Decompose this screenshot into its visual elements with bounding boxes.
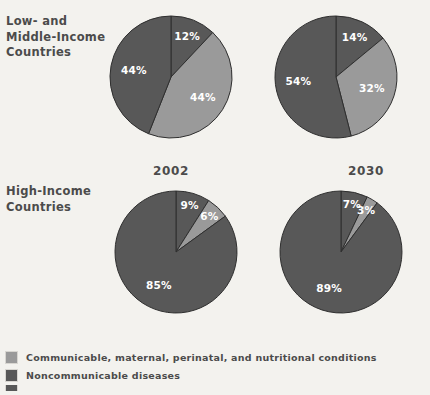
legend-item-injuries <box>5 385 425 391</box>
pie-slice-label: 12% <box>174 30 200 42</box>
pie-slice <box>280 191 402 313</box>
row-label-high-income: High-Income Countries <box>6 184 91 215</box>
legend-label-noncommunicable: Noncommunicable diseases <box>26 370 180 381</box>
pie-chart-low-middle-2002: 12%44%44% <box>107 13 235 141</box>
pie-slice-label: 44% <box>121 64 147 76</box>
pie-slice-label: 54% <box>286 75 312 87</box>
legend-item-noncommunicable: Noncommunicable diseases <box>5 367 425 383</box>
legend-swatch-injuries-icon <box>5 385 18 391</box>
pie-slice-label: 85% <box>146 279 172 291</box>
pie-slice-label: 44% <box>190 91 216 103</box>
pie-chart-high-income-2002: 9%6%85% <box>112 188 240 316</box>
pie-slice-label: 6% <box>200 210 219 222</box>
year-caption-2002: 2002 <box>141 164 201 178</box>
legend-swatch-communicable-icon <box>5 351 18 364</box>
legend: Communicable, maternal, perinatal, and n… <box>5 349 425 393</box>
pie-slice-label: 9% <box>180 199 199 211</box>
pie-chart-figure: Low- and Middle-Income Countries High-In… <box>0 0 430 395</box>
pie-slice-label: 89% <box>316 282 342 294</box>
pie-slice-label: 14% <box>342 31 368 43</box>
pie-slice-label: 3% <box>357 204 376 216</box>
year-caption-2030: 2030 <box>336 164 396 178</box>
pie-slice-label: 32% <box>359 82 385 94</box>
row-label-low-middle-income: Low- and Middle-Income Countries <box>6 14 105 61</box>
legend-item-communicable: Communicable, maternal, perinatal, and n… <box>5 349 425 365</box>
pie-chart-high-income-2030: 7%3%89% <box>277 188 405 316</box>
legend-swatch-noncommunicable-icon <box>5 369 18 382</box>
pie-chart-low-middle-2030: 14%32%54% <box>272 13 400 141</box>
legend-label-communicable: Communicable, maternal, perinatal, and n… <box>26 352 377 363</box>
